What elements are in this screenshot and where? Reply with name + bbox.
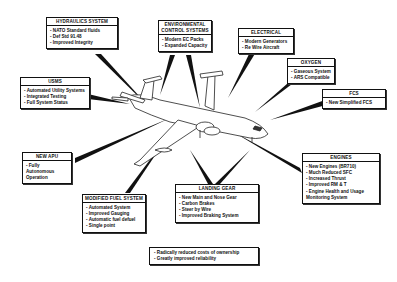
callout-hydraulics: HYDRAULICS SYSTEM NATO Standard fluids D…: [46, 17, 118, 49]
callout-item: Gaseous System: [291, 69, 331, 75]
callout-item: Full System Status: [24, 100, 86, 106]
callout-item: Modern Generators: [242, 39, 290, 45]
callout-environmental: ENVIRONMENTAL CONTROL SYSTEMS Modern EC …: [158, 20, 212, 52]
callout-title: ENVIRONMENTAL CONTROL SYSTEMS: [159, 21, 211, 35]
callout-item: Improved Integrity: [50, 40, 114, 46]
callout-engines: ENGINES New Engines (BR710) Much Reduced…: [302, 153, 380, 204]
callout-oxygen: OXYGEN Gaseous System ARS Compatible: [287, 58, 335, 84]
callout-fcs: FCS New Simplified FCS: [322, 89, 386, 109]
callout-item: Expanded Capacity: [162, 43, 208, 49]
callout-title: ENGINES: [303, 154, 379, 162]
aircraft-illustration: [112, 71, 268, 166]
callout-title: ELECTRICAL: [239, 29, 293, 37]
callout-title: LANDING GEAR: [176, 185, 258, 193]
callout-new-apu: NEW APU Fully Autonomous Operation: [22, 152, 72, 184]
callout-item: Automated Utility Systems: [24, 88, 86, 94]
callout-item: Single point: [86, 223, 142, 229]
callout-item: Fully Autonomous Operation: [26, 163, 68, 182]
callout-usms: USMS Automated Utility Systems Integrate…: [20, 77, 90, 109]
callout-title: HYDRAULICS SYSTEM: [47, 18, 117, 26]
callout-landing-gear: LANDING GEAR New Main and Nose Gear Carb…: [175, 184, 259, 223]
callout-title: OXYGEN: [288, 59, 334, 67]
callout-item: ARS Compatible: [291, 75, 331, 81]
callout-item: Improved Braking System: [179, 213, 255, 219]
callout-title: MODIFIED FUEL SYSTEM: [83, 195, 145, 203]
callout-item: New Simplified FCS: [326, 100, 382, 106]
callout-item: Re Wire Aircraft: [242, 45, 290, 51]
summary-box: Radically reduced costs of ownership Gre…: [149, 247, 259, 265]
callout-item: Engine Health and Usage Monitoring Syste…: [306, 189, 376, 201]
callout-title: FCS: [323, 90, 385, 98]
callout-title: NEW APU: [23, 153, 71, 161]
summary-item: Greatly improved reliability: [154, 256, 254, 262]
callout-electrical: ELECTRICAL Modern Generators Re Wire Air…: [238, 28, 294, 54]
callout-modified-fuel-system: MODIFIED FUEL SYSTEM Automated System Im…: [82, 194, 146, 233]
callout-title: USMS: [21, 78, 89, 86]
